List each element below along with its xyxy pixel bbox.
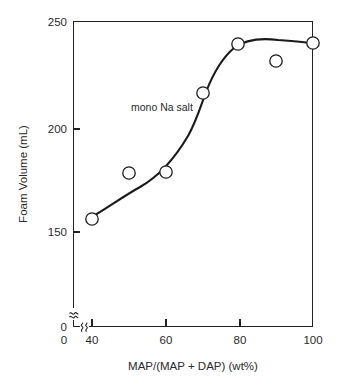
x-tick-label-80: 80 <box>234 334 247 346</box>
y-tick-label-150: 150 <box>48 226 67 238</box>
data-point-90 <box>270 55 282 67</box>
data-point-70 <box>197 87 209 99</box>
x-tick-label-40: 40 <box>86 334 99 346</box>
x-tick-label-60: 60 <box>160 334 173 346</box>
series-annotation-label: mono Na salt <box>131 101 193 113</box>
data-point-50 <box>123 167 135 179</box>
x-tick-label-0: 0 <box>61 334 67 346</box>
data-point-100 <box>307 37 319 49</box>
y-axis-break-icon <box>70 313 79 318</box>
data-point-80 <box>232 38 244 50</box>
y-tick-label-250: 250 <box>48 16 67 28</box>
foam-volume-chart: 250 200 150 0 0 40 60 80 100 MAP/(MAP + … <box>0 0 337 386</box>
chart-svg: 250 200 150 0 0 40 60 80 100 MAP/(MAP + … <box>0 0 337 386</box>
y-tick-label-200: 200 <box>48 123 67 135</box>
data-point-40 <box>86 213 98 225</box>
y-tick-label-0: 0 <box>61 321 67 333</box>
x-tick-label-100: 100 <box>303 334 322 346</box>
x-axis-break-icon <box>81 323 87 332</box>
x-axis-title: MAP/(MAP + DAP) (wt%) <box>128 360 258 372</box>
data-point-60 <box>160 166 172 178</box>
y-axis-title: Foam Volume (mL) <box>17 125 29 223</box>
